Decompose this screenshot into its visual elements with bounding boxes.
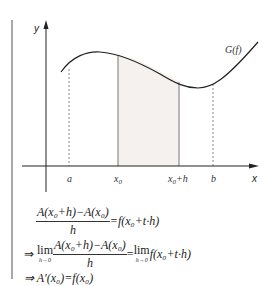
equals-sign: = <box>127 247 134 262</box>
tick-label-x0-plus-h: x0+h <box>167 173 188 186</box>
denominator: h <box>53 255 127 271</box>
y-axis-arrow-icon <box>44 20 49 29</box>
curve-label: G(f) <box>225 44 242 56</box>
tick-label-b: b <box>211 173 216 184</box>
shaded-area-region <box>118 55 179 166</box>
rhs: =f(x₀+t·h) <box>110 214 159 229</box>
difference-quotient: A(x₀+h)−A(x₀) h <box>53 238 127 271</box>
rhs: f(x₀+t·h) <box>150 247 191 262</box>
x-axis-arrow-icon <box>249 164 259 169</box>
limit-operator-2: lim h→0 <box>134 245 150 265</box>
numerator: A(x₀+h)−A(x₀) <box>53 238 127 255</box>
formula-line-1: A(x₀+h)−A(x₀) h =f(x₀+t·h) <box>36 205 159 238</box>
tick-label-a: a <box>67 173 72 184</box>
tick-label-x0: x0 <box>113 173 122 186</box>
denominator: h <box>36 222 110 238</box>
formula-line-2: ⇒ lim h→0 A(x₀+h)−A(x₀) h = lim h→0 f(x₀… <box>24 238 191 271</box>
x-axis-label: x <box>251 173 258 184</box>
formula-line-3: ⇒ A′(x₀)=f(x₀) <box>24 271 93 286</box>
difference-quotient: A(x₀+h)−A(x₀) h <box>36 205 110 238</box>
limit-operator: lim h→0 <box>37 245 53 265</box>
implies-symbol: ⇒ <box>24 247 34 262</box>
numerator: A(x₀+h)−A(x₀) <box>36 205 110 222</box>
y-axis-label: y <box>33 23 40 34</box>
